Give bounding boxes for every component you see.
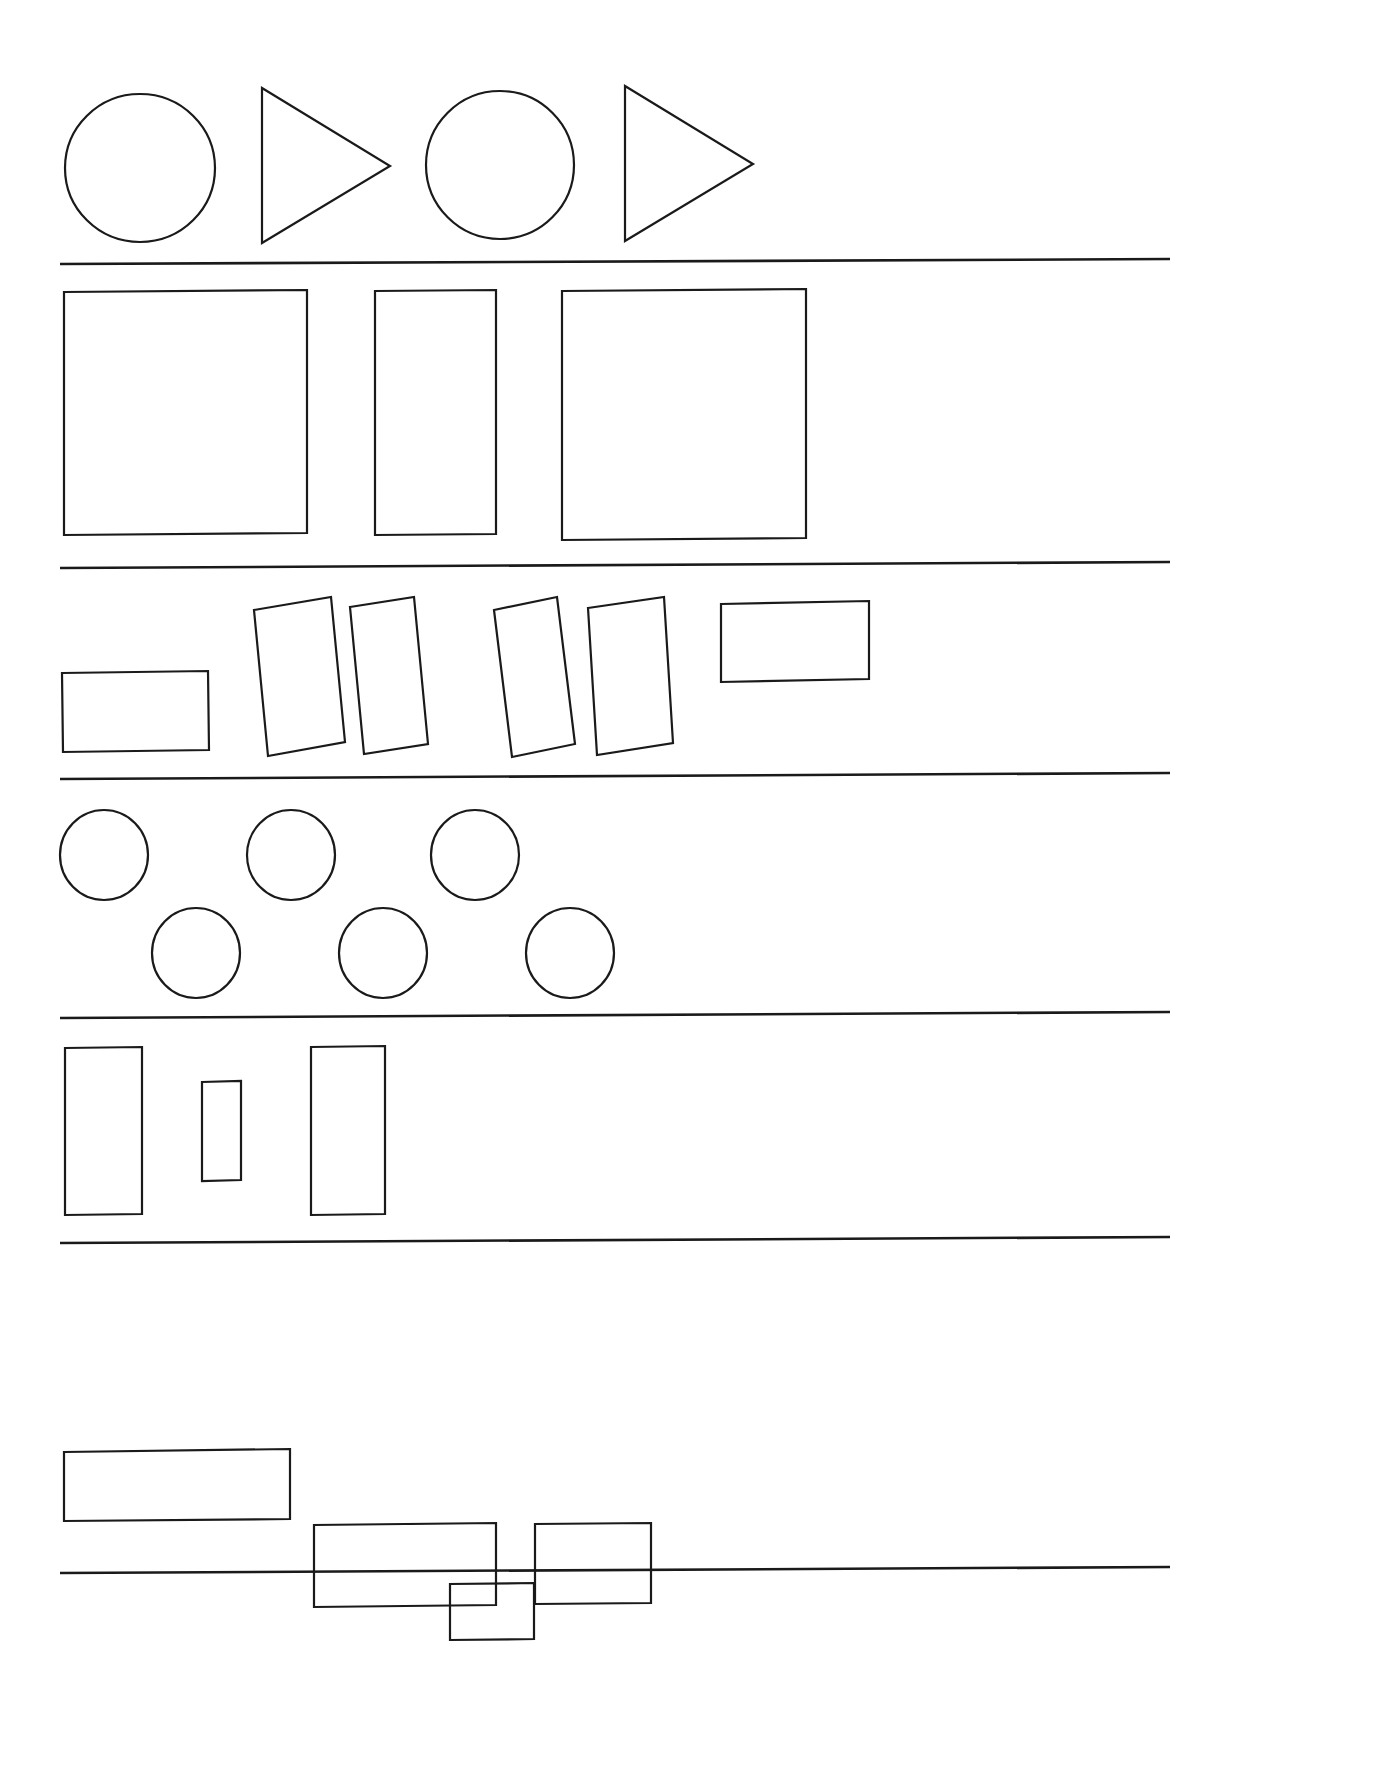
shape-canvas <box>0 0 1388 1789</box>
shape-sheet-page <box>0 0 1388 1789</box>
